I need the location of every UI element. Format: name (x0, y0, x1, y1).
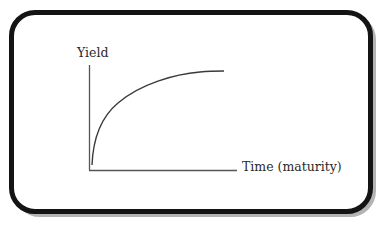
yield-curve-line (92, 71, 224, 165)
y-axis-label: Yield (77, 47, 108, 60)
yield-curve-plot (0, 0, 382, 225)
x-axis-label: Time (maturity) (242, 161, 342, 174)
